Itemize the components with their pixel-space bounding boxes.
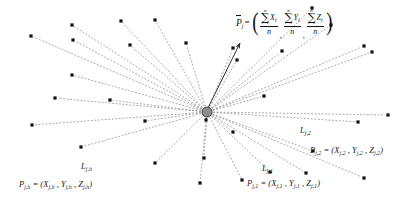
endpoint-marker	[280, 49, 283, 52]
endpoint-marker	[153, 161, 156, 164]
formula-separator-2: ,	[302, 31, 306, 40]
endpoint-marker	[128, 43, 131, 46]
ray-line	[76, 41, 202, 109]
endpoint-marker	[202, 156, 205, 159]
close-paren-icon: )	[326, 13, 332, 32]
formula-term-z: n ∑ i=1 Zi n	[307, 9, 324, 36]
label-l-j2: Lj,2	[300, 126, 311, 136]
endpoint-marker	[119, 19, 122, 22]
ray-line	[187, 46, 205, 106]
endpoint-marker	[70, 23, 73, 26]
ray-line	[210, 63, 235, 107]
endpoint-marker	[198, 181, 201, 184]
endpoint-marker	[108, 98, 111, 101]
endpoint-marker	[362, 44, 365, 47]
ray-line	[212, 27, 328, 109]
endpoint-marker	[71, 38, 74, 41]
summation-y: n ∑ i=1	[285, 9, 293, 26]
label-subscript: j,1	[267, 168, 273, 174]
endpoint-markers-group	[29, 6, 389, 184]
figure-canvas: Pj = ( n ∑ i=1 Xi n , n ∑ i=1	[0, 0, 414, 205]
fraction-numerator: n ∑ i=1 Zi	[307, 9, 324, 26]
endpoint-marker	[386, 113, 389, 116]
endpoint-marker	[231, 130, 234, 133]
label-subscript: j,2	[305, 130, 311, 136]
endpoint-marker	[184, 41, 187, 44]
formula-term-y: n ∑ i=1 Yi n	[284, 9, 301, 36]
endpoint-marker	[370, 50, 373, 53]
fraction-denominator-z: n	[313, 27, 317, 36]
summation-z: n ∑ i=1	[308, 9, 316, 26]
fraction-numerator: n ∑ i=1 Xi	[260, 9, 277, 26]
centroid-formula: Pj = ( n ∑ i=1 Xi n , n ∑ i=1	[236, 9, 333, 36]
endpoint-marker	[356, 120, 359, 123]
ray-line	[123, 23, 202, 107]
formula-equals: =	[243, 17, 250, 27]
formula-term-x: n ∑ i=1 Xi n	[260, 9, 277, 36]
ray-line	[113, 100, 201, 111]
ray-line	[157, 117, 202, 161]
endpoint-marker	[235, 58, 238, 61]
ray-line	[213, 115, 304, 171]
ray-line	[210, 118, 241, 178]
overbar	[236, 15, 241, 16]
endpoint-marker	[262, 94, 265, 97]
sum-variable-y: Yi	[294, 13, 300, 23]
endpoint-marker	[143, 119, 146, 122]
ray-line	[35, 112, 201, 124]
ray-line	[34, 37, 201, 109]
sum-variable-z: Zi	[317, 13, 323, 23]
ray-line	[200, 118, 206, 180]
centroid-hub	[202, 107, 212, 117]
endpoint-marker	[231, 46, 234, 49]
label-p-j1: Pj,1 = (Xj,1 , Yj,1 , Zj,1)	[247, 179, 320, 189]
endpoint-marker	[79, 145, 82, 148]
endpoint-marker	[29, 34, 32, 37]
radial-star-diagram	[0, 0, 414, 205]
formula-lhs-subscript: j	[242, 23, 244, 29]
endpoint-marker	[240, 178, 243, 181]
endpoint-marker	[70, 73, 73, 76]
ray-line	[213, 97, 261, 110]
ray-line	[75, 76, 201, 110]
ray-line	[212, 53, 280, 108]
endpoint-marker	[204, 118, 207, 121]
ray-line	[156, 23, 203, 107]
endpoint-marker	[53, 96, 56, 99]
ray-line	[58, 98, 201, 111]
label-p-jh: Pj,h = (Xj,h , Yj,h , Zj,h)	[19, 180, 92, 190]
summation-x: n ∑ i=1	[261, 9, 269, 26]
sum-variable-x: Xi	[270, 13, 277, 23]
formula-separator-1: ,	[279, 31, 283, 40]
fraction-denominator-x: n	[267, 27, 271, 36]
label-p-j2: Pj,2 = (Xj,2 , Yj,2 , Zj,2)	[310, 146, 383, 156]
ray-line	[214, 112, 386, 115]
ray-line	[75, 27, 202, 109]
fraction-numerator: n ∑ i=1 Yi	[284, 9, 301, 26]
formula-lhs: Pj	[236, 16, 243, 29]
label-l-jh: Lj,h	[81, 162, 92, 172]
endpoint-marker	[304, 171, 307, 174]
endpoint-marker	[153, 18, 156, 21]
endpoint-marker	[362, 176, 365, 179]
label-l-j1: Lj,1	[262, 164, 273, 174]
open-paren-icon: (	[252, 13, 258, 32]
endpoint-marker	[30, 123, 33, 126]
ray-line	[84, 114, 201, 146]
fraction-denominator-y: n	[290, 27, 294, 36]
ray-line	[148, 113, 201, 121]
label-subscript: j,h	[86, 166, 92, 172]
ray-line	[213, 47, 361, 109]
